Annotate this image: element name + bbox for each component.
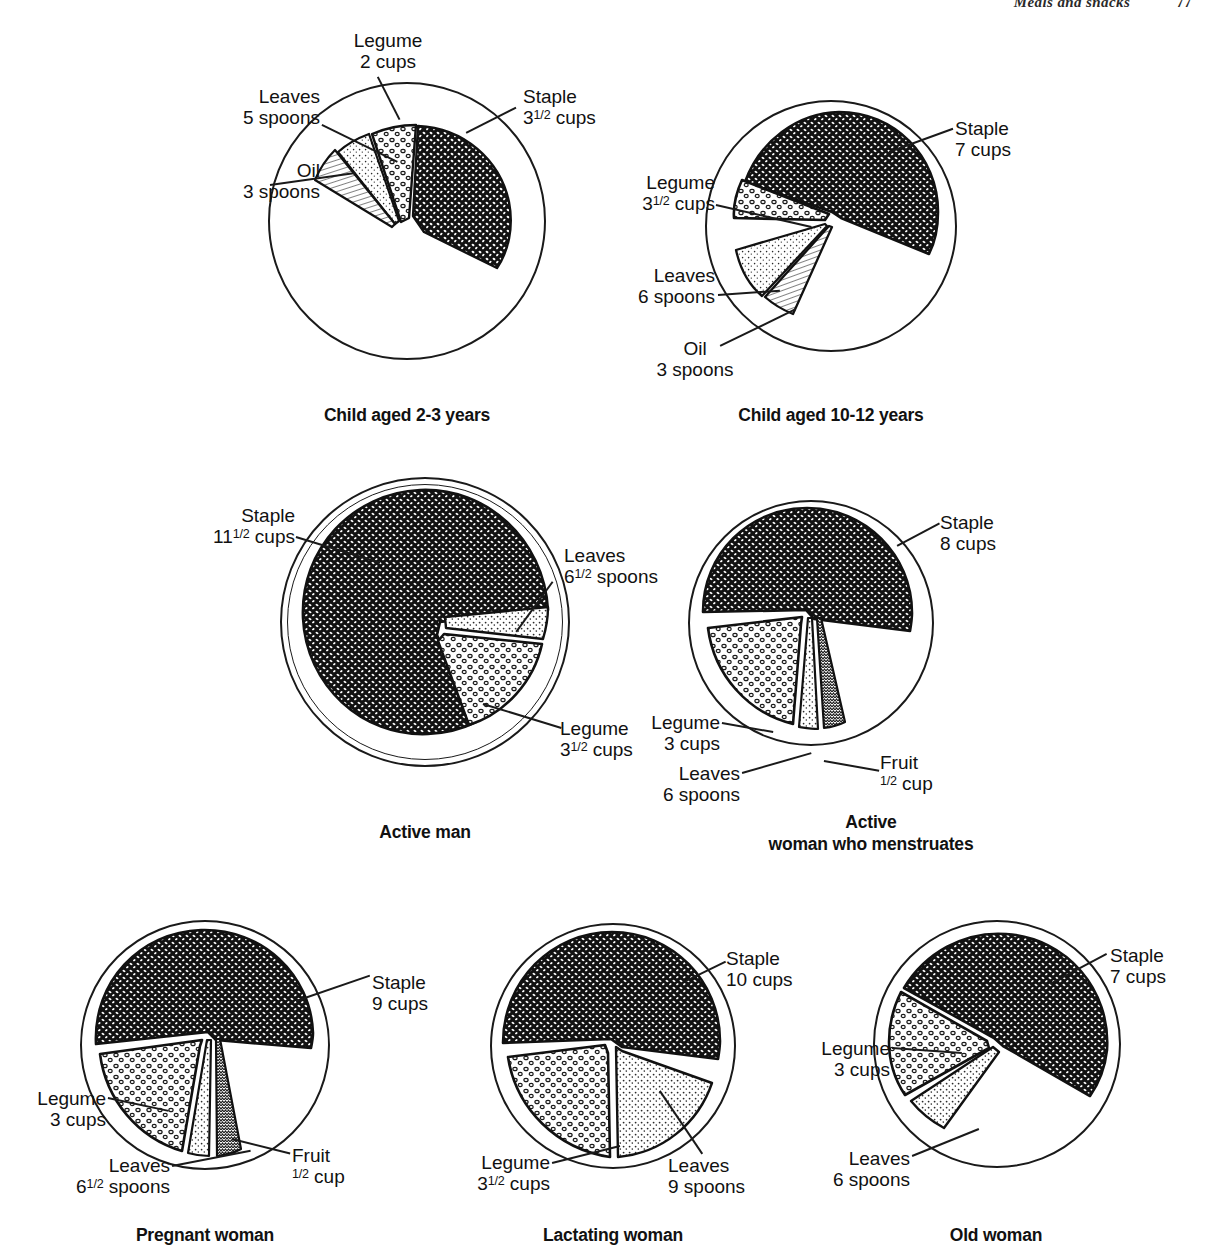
label-qty: 1/2 cup [880,773,990,794]
label-legume-lactating-woman: Legume 31/2 cups [400,1152,550,1195]
figure-active-man [280,477,570,767]
food-wedges [688,500,934,746]
label-staple-active-man: Staple 111/2 cups [150,505,295,548]
qty-unit: cup [902,773,933,794]
qty-unit: cups [556,107,596,128]
qty-number: 3 [523,107,534,128]
label-qty: 61/2 spoons [20,1176,170,1197]
caption-line-2: woman who menstruates [686,834,1056,856]
label-leaves-child-10-12: Leaves 6 spoons [585,265,715,308]
label-name: Legume [600,712,720,733]
label-qty: 7 cups [1110,966,1206,987]
label-name: Legume [318,30,458,51]
label-qty: 31/2 cups [523,107,693,128]
label-name: Leaves [780,1148,910,1169]
label-qty: 10 cups [726,969,876,990]
label-qty: 31/2 cups [400,1173,550,1194]
caption-line-1: Active [686,812,1056,834]
leader-fruit-active-woman [824,760,879,771]
qty-fraction: 1/2 [571,740,588,754]
label-qty: 5 spoons [175,107,320,128]
label-leaves-active-woman: Leaves 6 spoons [610,763,740,806]
label-oil-child-10-12: Oil 3 spoons [630,338,760,381]
label-name: Leaves [20,1155,170,1176]
label-name: Staple [1110,945,1206,966]
label-name: Leaves [585,265,715,286]
page-canvas: Meals and snacks 77 [0,0,1206,1253]
qty-unit: spoons [597,566,658,587]
qty-fraction: 1/2 [534,108,551,122]
label-staple-old-woman: Staple 7 cups [1110,945,1206,988]
qty-fraction: 1/2 [87,1177,104,1191]
label-leaves-child-2-3: Leaves 5 spoons [175,86,320,129]
qty-number: 3 [560,739,571,760]
label-legume-active-woman: Legume 3 cups [600,712,720,755]
figure-active-woman [688,500,934,746]
qty-unit: cups [510,1173,550,1194]
label-qty: 3 cups [760,1059,890,1080]
qty-fraction: 1/2 [488,1174,505,1188]
food-wedges [873,920,1121,1168]
label-name: Fruit [880,752,990,773]
food-wedges [80,920,330,1170]
qty-number: 3 [642,193,653,214]
label-qty: 6 spoons [585,286,715,307]
figure-lactating-woman [490,923,736,1169]
qty-unit: cups [675,193,715,214]
label-qty: 111/2 cups [150,526,295,547]
label-qty: 3 cups [0,1109,106,1130]
label-qty: 1/2 cup [292,1166,402,1187]
caption-child-2-3: Child aged 2-3 years [268,405,546,427]
label-name: Legume [760,1038,890,1059]
label-qty: 3 spoons [175,181,320,202]
label-name: Staple [726,948,876,969]
food-wedges [280,477,570,767]
label-name: Oil [175,160,320,181]
running-header: Meals and snacks 77 [1014,0,1192,11]
label-staple-child-10-12: Staple 7 cups [955,118,1115,161]
label-qty: 2 cups [318,51,458,72]
caption-child-10-12: Child aged 10-12 years [690,405,972,427]
label-legume-pregnant-woman: Legume 3 cups [0,1088,106,1131]
label-legume-child-10-12: Legume 31/2 cups [575,172,715,215]
label-name: Legume [400,1152,550,1173]
label-staple-active-woman: Staple 8 cups [940,512,1090,555]
label-fruit-active-woman: Fruit 1/2 cup [880,752,990,795]
label-name: Staple [940,512,1090,533]
label-name: Legume [575,172,715,193]
food-wedges [490,923,736,1169]
label-qty: 31/2 cups [575,193,715,214]
qty-fraction: 1/2 [292,1167,309,1181]
label-name: Staple [523,86,693,107]
label-name: Leaves [610,763,740,784]
label-staple-lactating-woman: Staple 10 cups [726,948,876,991]
label-legume-old-woman: Legume 3 cups [760,1038,890,1081]
label-staple-child-2-3: Staple 31/2 cups [523,86,693,129]
qty-number: 6 [76,1176,87,1197]
page-number: 77 [1176,0,1192,11]
running-title: Meals and snacks [1014,0,1130,11]
qty-fraction: 1/2 [233,527,250,541]
qty-number: 3 [477,1173,488,1194]
caption-active-woman: Active woman who menstruates [686,812,1056,856]
label-name: Legume [0,1088,106,1109]
figure-pregnant-woman [80,920,330,1170]
label-leaves-pregnant-woman: Leaves 61/2 spoons [20,1155,170,1198]
label-qty: 6 spoons [780,1169,910,1190]
label-name: Oil [630,338,760,359]
label-qty: 3 cups [600,733,720,754]
label-name: Staple [955,118,1115,139]
qty-unit: cup [314,1166,345,1187]
label-name: Leaves [175,86,320,107]
figure-old-woman [873,920,1121,1168]
label-qty: 6 spoons [610,784,740,805]
figure-child-10-12 [705,100,957,352]
label-leaves-old-woman: Leaves 6 spoons [780,1148,910,1191]
label-name: Staple [150,505,295,526]
label-legume-child-2-3: Legume 2 cups [318,30,458,73]
caption-active-man: Active man [285,822,565,844]
qty-number: 6 [564,566,575,587]
label-qty: 8 cups [940,533,1090,554]
qty-number: 11 [213,526,233,547]
qty-unit: cups [255,526,295,547]
